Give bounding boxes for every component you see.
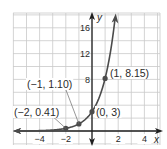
x-tick-label: −4 — [34, 134, 44, 144]
point-label: (−1, 1.10) — [27, 78, 72, 90]
point-label: (0, 3) — [96, 106, 121, 118]
x-axis-label: x — [153, 134, 160, 145]
y-tick-label: 12 — [80, 49, 90, 59]
y-tick-label: 8 — [85, 75, 90, 85]
point-label: (1, 8.15) — [110, 67, 149, 79]
y-tick-label: 16 — [80, 23, 90, 33]
point-annotations: (−2, 0.41)(−1, 1.10)(0, 3)(1, 8.15) — [13, 67, 150, 128]
data-point — [103, 76, 108, 81]
exponential-graph: xy−4−22481216 (−2, 0.41)(−1, 1.10)(0, 3)… — [0, 0, 167, 149]
point-label: (−2, 0.41) — [14, 106, 59, 118]
x-tick-label: 4 — [142, 134, 147, 144]
x-tick-label: 2 — [116, 134, 121, 144]
leader-line — [66, 90, 79, 124]
y-axis-label: y — [96, 12, 103, 23]
data-point — [89, 109, 94, 114]
x-tick-label: −2 — [61, 134, 71, 144]
